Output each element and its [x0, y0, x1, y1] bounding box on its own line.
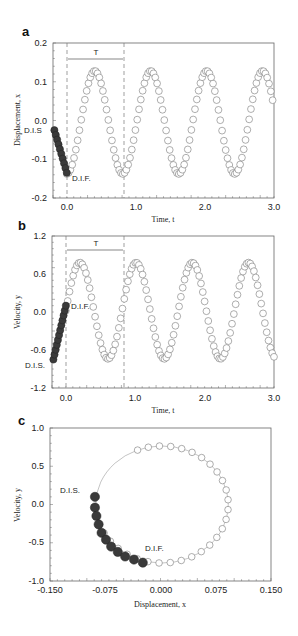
solution-point — [125, 161, 132, 168]
solution-point — [252, 274, 259, 281]
solution-point — [219, 525, 226, 532]
solution-point — [236, 282, 243, 289]
solution-point — [192, 106, 199, 113]
solution-point — [112, 155, 119, 162]
solution-point — [246, 116, 253, 123]
history-point — [62, 302, 69, 309]
solution-point — [237, 161, 244, 168]
solution-point — [229, 320, 236, 327]
solution-point — [172, 322, 179, 329]
solution-point — [211, 88, 218, 95]
history-point — [121, 552, 130, 561]
solution-point — [198, 454, 205, 461]
solution-point — [132, 127, 139, 134]
panel-b-ytick: 1.2 — [33, 231, 46, 241]
panel-b-ylabel: Velocity, y — [13, 295, 22, 329]
solution-point — [269, 97, 276, 104]
panel-a-ytick: -0.1 — [31, 154, 47, 164]
solution-point — [258, 300, 265, 307]
solution-point — [203, 308, 210, 315]
solution-point — [109, 137, 116, 144]
panel-c-xtick: 0.000 — [150, 585, 173, 595]
solution-point — [209, 335, 216, 342]
panel-a-ytick: 0.1 — [34, 77, 47, 87]
solution-point — [110, 347, 117, 354]
dif-label: D.I.F. — [71, 302, 90, 311]
solution-point — [165, 137, 172, 144]
panel-c-ytick: 0.5 — [31, 461, 44, 471]
panel-c-ytick: -0.5 — [28, 537, 44, 547]
solution-point — [195, 87, 202, 94]
solution-point — [249, 96, 256, 103]
solution-point — [219, 127, 226, 134]
solution-point — [156, 560, 163, 567]
solution-point — [181, 276, 188, 283]
solution-point — [205, 318, 212, 325]
solution-point — [183, 154, 190, 161]
solution-point — [248, 106, 255, 113]
panel-a-xtick: 1.0 — [130, 202, 143, 212]
solution-point — [143, 287, 150, 294]
solution-point — [215, 106, 222, 113]
solution-point — [196, 273, 203, 280]
solution-point — [150, 325, 157, 332]
history-point — [63, 169, 70, 176]
panel-a-ytick: 0.2 — [34, 38, 47, 48]
history-point — [138, 558, 147, 567]
solution-point — [181, 161, 188, 168]
history-point — [129, 555, 138, 564]
solution-point — [156, 443, 163, 450]
solution-point — [260, 310, 267, 317]
panel-c-xtick: -0.150 — [37, 585, 63, 595]
panel-b-xtick: 3.0 — [268, 393, 281, 403]
solution-point — [141, 278, 148, 285]
solution-point — [251, 268, 258, 275]
solution-point — [168, 155, 175, 162]
panel-b-frame — [52, 236, 274, 388]
panel-a-xtick: 2.0 — [199, 202, 212, 212]
solution-point — [179, 284, 186, 291]
solution-point — [227, 329, 234, 336]
dif-label: D.I.F. — [145, 544, 164, 553]
solution-point — [98, 80, 105, 87]
solution-point — [210, 80, 217, 87]
solution-point — [174, 313, 181, 320]
solution-point — [188, 127, 195, 134]
history-point — [90, 492, 99, 501]
solution-point — [201, 298, 208, 305]
solution-point — [152, 334, 159, 341]
solution-point — [163, 127, 170, 134]
panel-c-frame — [50, 428, 271, 581]
panel-a-ytick: 0.0 — [34, 116, 47, 126]
solution-point — [178, 445, 185, 452]
solution-point — [81, 96, 88, 103]
solution-point — [167, 443, 174, 450]
dis-label: D.I.S — [24, 126, 42, 135]
solution-point — [161, 117, 168, 124]
solution-point — [190, 116, 197, 123]
solution-point — [128, 146, 135, 153]
solution-point — [265, 337, 272, 344]
solution-point — [80, 106, 87, 113]
panel-c-ytick: 1.0 — [31, 423, 44, 433]
solution-point — [214, 534, 221, 541]
solution-point — [127, 154, 134, 161]
solution-point — [134, 447, 141, 454]
solution-point — [225, 496, 232, 503]
solution-point — [230, 311, 237, 318]
panel-b-points — [50, 259, 278, 363]
solution-point — [137, 96, 144, 103]
solution-point — [242, 137, 249, 144]
panel-b-xtick: 2.0 — [199, 393, 212, 403]
solution-point — [266, 80, 273, 87]
solution-point — [123, 286, 130, 293]
solution-point — [94, 323, 101, 330]
panel-a-xtick: 3.0 — [268, 202, 281, 212]
solution-point — [223, 487, 230, 494]
solution-point — [121, 295, 128, 302]
solution-point — [170, 331, 177, 338]
panel-a-xlabel: Time, t — [152, 215, 176, 224]
solution-point — [239, 154, 246, 161]
solution-point — [188, 554, 195, 561]
solution-point — [263, 329, 270, 336]
